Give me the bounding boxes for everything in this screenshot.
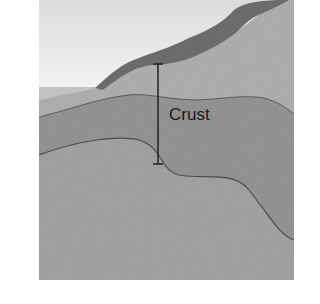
crust-cross-section: Crust — [39, 0, 294, 280]
crust-label: Crust — [169, 105, 210, 124]
crust-diagram: Crust — [39, 0, 294, 280]
